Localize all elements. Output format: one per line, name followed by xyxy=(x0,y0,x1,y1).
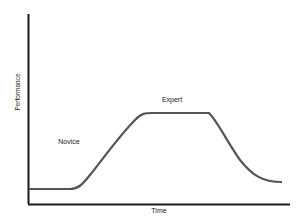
performance-curve xyxy=(29,113,282,189)
y-axis-label: Performance xyxy=(14,73,21,111)
novice-annotation: Novice xyxy=(58,138,80,145)
performance-chart: Time Performance Novice Expert xyxy=(0,0,304,223)
expert-annotation: Expert xyxy=(162,96,182,104)
x-axis-label: Time xyxy=(151,207,166,214)
